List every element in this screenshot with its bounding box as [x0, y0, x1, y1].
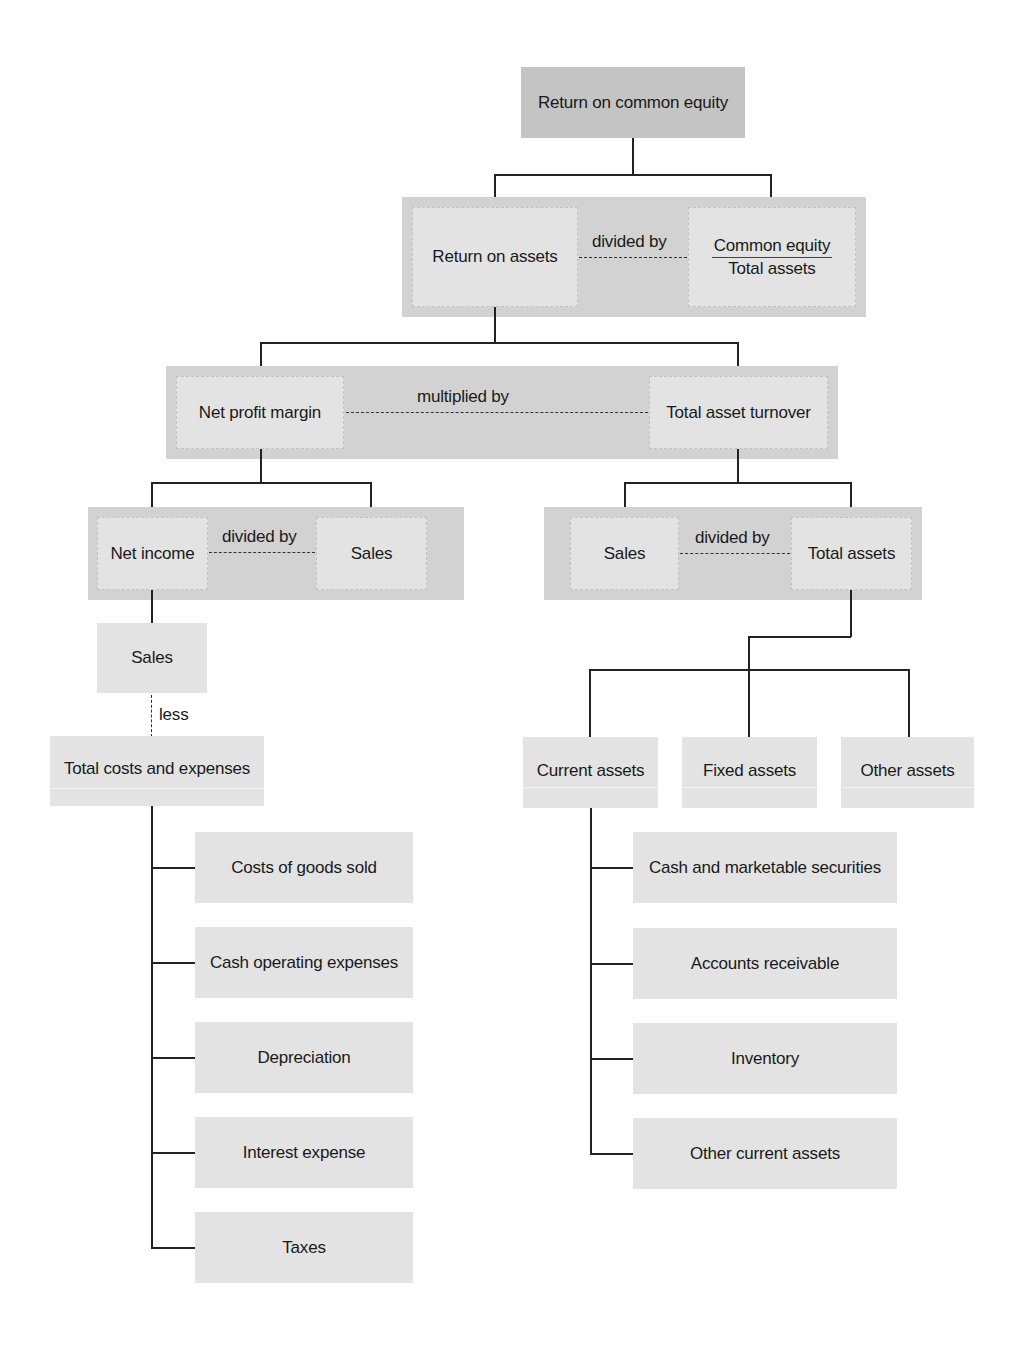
operator-divided-by: divided by [592, 232, 667, 252]
connector [151, 1152, 195, 1154]
connector [748, 636, 851, 638]
operator-divided-by: divided by [222, 527, 297, 547]
connector [494, 307, 496, 344]
node-label: Sales [604, 544, 646, 564]
node-label: Net profit margin [199, 403, 321, 423]
node-current-assets: Current assets [523, 737, 658, 808]
node-total-asset-turnover: Total asset turnover [649, 376, 828, 449]
connector [151, 1247, 195, 1249]
connector [589, 669, 910, 671]
fraction-denominator: Total assets [728, 258, 815, 279]
node-label: Total costs and expenses [64, 759, 250, 779]
node-sales: Sales [316, 517, 427, 590]
node-label: Net income [111, 544, 195, 564]
connector [260, 449, 262, 484]
node-interest-expense: Interest expense [195, 1117, 413, 1188]
node-equity-multiplier: Common equity Total assets [688, 207, 856, 307]
fraction-numerator: Common equity [712, 235, 832, 257]
node-label: Return on assets [432, 247, 557, 267]
connector [590, 867, 633, 869]
connector [151, 867, 195, 869]
dashed-connector [579, 257, 687, 258]
node-total-costs-and-expenses: Total costs and expenses [50, 736, 264, 806]
connector [590, 808, 592, 1154]
node-net-profit-margin: Net profit margin [176, 376, 344, 449]
connector [151, 1057, 195, 1059]
node-label: Other current assets [690, 1144, 840, 1164]
node-label: Depreciation [257, 1048, 350, 1068]
node-return-on-common-equity: Return on common equity [521, 67, 745, 138]
fraction: Common equity Total assets [712, 235, 832, 279]
connector [737, 449, 739, 484]
dashed-connector [151, 695, 152, 737]
node-label: Interest expense [243, 1143, 366, 1163]
node-label: Costs of goods sold [231, 858, 377, 878]
node-label: Return on common equity [538, 93, 728, 113]
node-label: Cash operating expenses [210, 953, 398, 973]
node-cash-operating-expenses: Cash operating expenses [195, 927, 413, 998]
node-label: Inventory [731, 1049, 799, 1069]
node-label: Taxes [282, 1238, 325, 1258]
node-label: Total assets [808, 544, 895, 564]
connector [908, 669, 910, 738]
node-net-income: Net income [97, 517, 208, 590]
node-label: Accounts receivable [691, 954, 839, 974]
node-other-assets: Other assets [841, 737, 974, 808]
node-label: Current assets [537, 761, 645, 781]
connector [151, 806, 153, 1249]
connector [589, 669, 591, 738]
connector [151, 590, 153, 624]
connector [151, 962, 195, 964]
operator-multiplied-by: multiplied by [417, 387, 509, 407]
connector [624, 482, 851, 484]
node-depreciation: Depreciation [195, 1022, 413, 1093]
node-label: Total asset turnover [666, 403, 810, 423]
node-total-assets: Total assets [791, 517, 912, 590]
node-label: Sales [351, 544, 393, 564]
dashed-connector [680, 553, 790, 554]
connector [590, 1153, 633, 1155]
connector [748, 636, 750, 738]
operator-divided-by: divided by [695, 528, 770, 548]
node-other-current-assets: Other current assets [633, 1118, 897, 1189]
node-sales-revenue: Sales [97, 623, 207, 693]
dashed-connector [209, 552, 315, 553]
connector [632, 138, 634, 175]
node-label: Other assets [861, 761, 955, 781]
connector [850, 590, 852, 637]
node-return-on-assets: Return on assets [412, 207, 578, 307]
connector [590, 1058, 633, 1060]
connector [260, 342, 738, 344]
node-label: Fixed assets [703, 761, 796, 781]
operator-less: less [159, 705, 188, 725]
dashed-connector [346, 412, 648, 413]
node-taxes: Taxes [195, 1212, 413, 1283]
node-label: Sales [131, 648, 173, 668]
node-cash-and-marketable-securities: Cash and marketable securities [633, 832, 897, 903]
node-label: Cash and marketable securities [649, 858, 881, 878]
node-fixed-assets: Fixed assets [682, 737, 817, 808]
connector [151, 482, 372, 484]
node-sales: Sales [570, 517, 679, 590]
node-accounts-receivable: Accounts receivable [633, 928, 897, 999]
node-costs-of-goods-sold: Costs of goods sold [195, 832, 413, 903]
connector [494, 174, 772, 176]
connector [590, 963, 633, 965]
node-inventory: Inventory [633, 1023, 897, 1094]
